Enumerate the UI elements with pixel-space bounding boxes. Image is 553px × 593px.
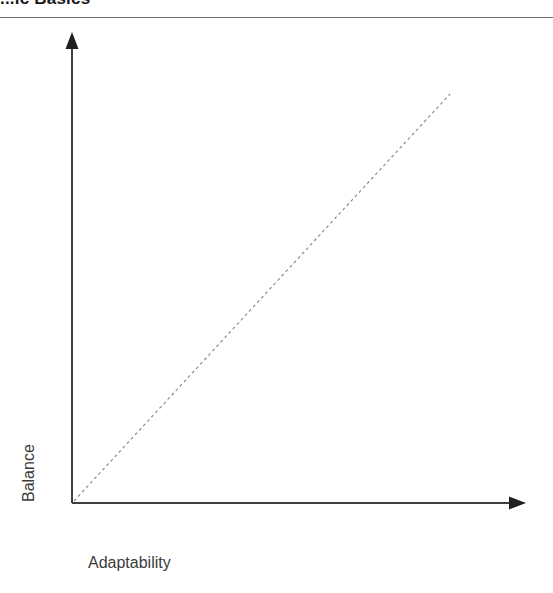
y-axis-label: Balance <box>20 422 38 502</box>
y-axis-arrowhead <box>66 32 79 49</box>
chart-svg <box>0 18 553 593</box>
page-title: ...ic Basics <box>0 0 90 9</box>
trend-line-dashed <box>74 94 450 501</box>
chart-container: Adaptability Balance <box>0 18 553 593</box>
x-axis-arrowhead <box>509 497 526 510</box>
x-axis-label: Adaptability <box>88 554 171 572</box>
page-title-clip: ...ic Basics <box>0 0 553 12</box>
chart-page: ...ic Basics Adaptability Balance <box>0 0 553 593</box>
